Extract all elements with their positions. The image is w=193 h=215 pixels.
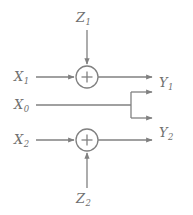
- label-z2-base: Z: [76, 191, 85, 206]
- label-x0-base: X: [14, 97, 23, 112]
- label-z1: Z1: [76, 11, 90, 24]
- signal-flow-diagram: Z1 X1 X0 X2 Y1 Y2 Z2: [0, 0, 193, 215]
- label-y1: Y1: [159, 76, 173, 89]
- label-x2-base: X: [14, 132, 23, 147]
- label-y1-sub: 1: [168, 82, 173, 92]
- label-x1: X1: [14, 70, 29, 83]
- label-y1-base: Y: [159, 75, 168, 90]
- label-z1-sub: 1: [86, 17, 91, 27]
- label-y2: Y2: [159, 126, 173, 139]
- label-y2-sub: 2: [168, 132, 173, 142]
- label-x2-sub: 2: [24, 139, 29, 149]
- label-x2: X2: [14, 133, 29, 146]
- label-y2-base: Y: [159, 125, 168, 140]
- label-x1-sub: 1: [24, 76, 29, 86]
- label-x0-sub: 0: [24, 104, 29, 114]
- label-x1-base: X: [14, 69, 23, 84]
- label-x0: X0: [14, 98, 29, 111]
- label-z1-base: Z: [76, 10, 85, 25]
- label-z2-sub: 2: [86, 198, 91, 208]
- label-z2: Z2: [76, 192, 90, 205]
